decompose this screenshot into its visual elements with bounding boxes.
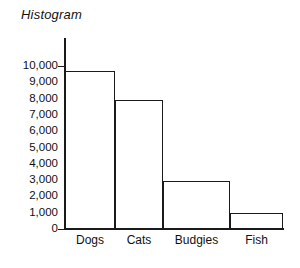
y-axis-tick-label: 5,000 xyxy=(29,142,58,154)
bar-fish xyxy=(230,213,283,229)
y-axis-tick-label: 9,000 xyxy=(29,76,58,88)
y-axis-tick-label: 8,000 xyxy=(29,93,58,105)
y-axis-tick-label: 4,000 xyxy=(29,158,58,170)
y-axis-tick-label: 10,000 xyxy=(23,60,58,72)
x-axis-label-budgies: Budgies xyxy=(163,233,230,247)
x-axis-label-dogs: Dogs xyxy=(65,233,115,247)
bar-dogs xyxy=(65,71,115,229)
bar-cats xyxy=(115,100,163,229)
y-axis-tick-mark xyxy=(58,229,66,230)
chart-title: Histogram xyxy=(21,7,82,22)
y-axis-tick-mark xyxy=(58,66,66,67)
y-axis-tick-label: 1,000 xyxy=(29,207,58,219)
y-axis-tick-label: 3,000 xyxy=(29,174,58,186)
histogram-chart: Histogram 10,0009,0008,0007,0006,0005,00… xyxy=(0,0,300,268)
y-axis-tick-label: 6,000 xyxy=(29,125,58,137)
y-axis-tick-label: 2,000 xyxy=(29,190,58,202)
x-axis-label-cats: Cats xyxy=(115,233,163,247)
y-axis-tick-label: 7,000 xyxy=(29,109,58,121)
x-axis-label-fish: Fish xyxy=(230,233,283,247)
bar-budgies xyxy=(163,181,230,229)
